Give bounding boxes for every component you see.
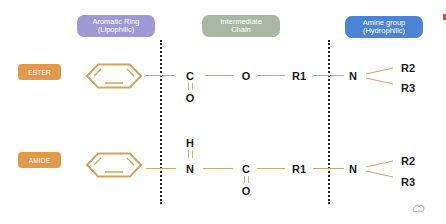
amide-r1: R1 [292,164,306,175]
amide-bond-ring-n [146,168,176,169]
amide-double-bond [244,176,249,183]
ester-r3: R3 [401,83,415,94]
amide-r2: R2 [401,156,415,167]
amide-r3: R3 [401,177,415,188]
benzene-ring-icon [86,152,144,178]
ester-nitrogen: N [349,71,357,82]
amide-carbonyl-oxygen: O [242,186,251,197]
header-aromatic-line2: (Lipophilic) [98,26,134,35]
benzene-ring-icon [86,63,144,89]
amide-branch-bonds [366,159,396,179]
header-amine-group: Amine group (Hydrophilic) [345,16,423,38]
header-aromatic-ring: Aromatic Ring (Lipophilic) [77,15,155,37]
header-amine-line2: (Hydrophilic) [363,27,405,36]
ester-r1: R1 [292,71,306,82]
ester-bond-o-r1 [257,75,285,76]
ester-r2: R2 [401,63,415,74]
ester-linker-oxygen: O [242,71,251,82]
amide-linker-nitrogen: N [186,164,194,175]
amide-nitrogen: N [349,164,357,175]
signature-watermark-icon [412,203,426,213]
amide-nh-bond [188,150,193,158]
ester-bond-r1-n [313,75,344,76]
divider-lipophilic-intermediate [160,40,162,204]
header-intermediate-chain: Intermediate Chain [202,15,280,37]
amide-label: AMIDE [18,152,61,168]
ester-branch-bonds [366,66,396,86]
header-intermediate-line2: Chain [231,26,251,35]
amide-carbon: C [242,164,250,175]
amide-bond-n-c [203,168,233,169]
ester-label: ESTER [18,64,61,80]
ester-carbon: C [186,71,194,82]
ester-carbonyl-oxygen: O [186,93,195,104]
divider-intermediate-hydrophilic [328,40,330,204]
amide-hydrogen: H [186,138,194,149]
ester-bond-c-o [205,75,233,76]
ester-double-bond [188,83,193,90]
ester-bond-ring-c [145,75,175,76]
amide-bond-r1-n [313,168,344,169]
amide-bond-c-r1 [257,168,285,169]
